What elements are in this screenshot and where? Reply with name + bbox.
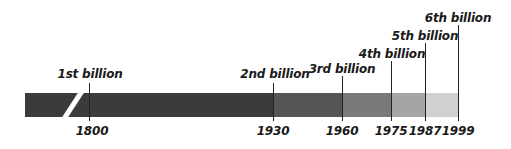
year-1999: 1999 <box>442 124 475 138</box>
year-1930: 1930 <box>257 124 290 138</box>
tick-1975 <box>391 61 392 121</box>
tick-1960 <box>342 76 343 121</box>
year-1987: 1987 <box>409 124 442 138</box>
tick-1800 <box>89 83 90 121</box>
label-4th-billion: 4th billion <box>359 47 425 61</box>
label-2nd-billion: 2nd billion <box>240 67 309 81</box>
tick-1930 <box>273 83 274 121</box>
year-1975: 1975 <box>375 124 408 138</box>
segment-1975-1987 <box>391 93 425 117</box>
segment-1800-1930 <box>25 93 273 117</box>
label-5th-billion: 5th billion <box>392 29 458 43</box>
population-timeline-chart: 1st billion 2nd billion 3rd billion 4th … <box>0 0 511 149</box>
label-1st-billion: 1st billion <box>57 67 122 81</box>
segment-1930-1960 <box>273 93 342 117</box>
year-1800: 1800 <box>76 124 109 138</box>
segment-1960-1975 <box>342 93 391 117</box>
segment-1987-1999 <box>425 93 458 117</box>
label-3rd-billion: 3rd billion <box>309 62 376 76</box>
label-6th-billion: 6th billion <box>425 11 491 25</box>
year-1960: 1960 <box>326 124 359 138</box>
